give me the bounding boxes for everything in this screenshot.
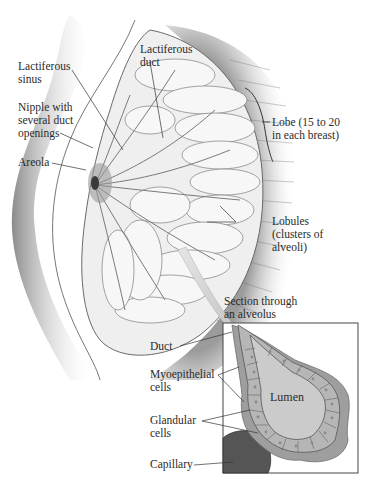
label-nipple: Nipple with several duct openings [18, 101, 73, 140]
label-areola: Areola [18, 156, 49, 169]
label-duct: Duct [150, 340, 172, 353]
label-glandular-cells: Glandular cells [150, 414, 196, 440]
label-lumen: Lumen [270, 391, 304, 404]
label-capillary: Capillary [150, 458, 193, 471]
nipple [91, 176, 99, 190]
label-lobe: Lobe (15 to 20 in each breast) [272, 116, 340, 142]
label-myoepithelial-cells: Myoepithelial cells [150, 368, 215, 394]
label-lactiferous-sinus: Lactiferous sinus [18, 60, 70, 86]
breast-anatomy-diagram: Lactiferous sinus Lactiferous duct Nippl… [0, 0, 365, 484]
label-lactiferous-duct: Lactiferous duct [140, 43, 192, 69]
label-lobules: Lobules (clusters of alveoli) [272, 215, 323, 254]
label-section-title: Section through an alveolus [224, 295, 297, 321]
